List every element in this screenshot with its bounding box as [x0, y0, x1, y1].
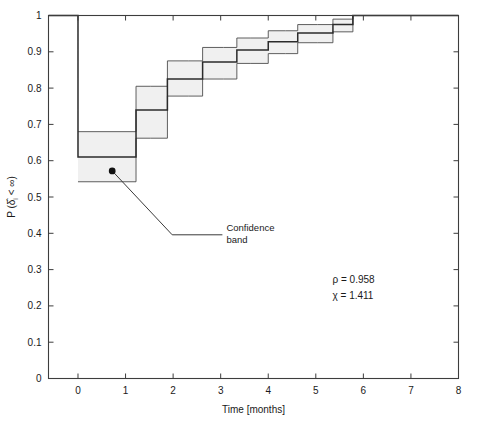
y-tick-label: 0.6 — [28, 155, 42, 166]
y-tick-label: 0.9 — [28, 46, 42, 57]
y-tick-label: 0.1 — [28, 337, 42, 348]
callout-point-marker — [109, 168, 116, 175]
callout-label-line1: Confidence — [226, 222, 274, 233]
x-tick-label: 3 — [218, 385, 224, 396]
y-axis-title-text: P (δ̂i < ∞) — [6, 176, 19, 218]
y-tick-label: 0.7 — [28, 119, 42, 130]
chi-statistic-label: χ = 1.411 — [333, 290, 374, 301]
x-tick-label: 2 — [170, 385, 176, 396]
y-tick-label: 0.2 — [28, 300, 42, 311]
callout-label-line2: band — [226, 234, 247, 245]
x-tick-label: 6 — [361, 385, 367, 396]
y-tick-label: 0.3 — [28, 264, 42, 275]
y-tick-label: 0.8 — [28, 83, 42, 94]
x-tick-label: 8 — [456, 385, 462, 396]
x-tick-label: 0 — [75, 385, 81, 396]
figure-root: 012345678 00.10.20.30.40.50.60.70.80.91 … — [0, 0, 478, 425]
x-axis-title: Time [months] — [222, 404, 285, 415]
rho-statistic-label: ρ = 0.958 — [333, 274, 376, 285]
y-tick-label: 0.4 — [28, 228, 42, 239]
y-tick-label: 0.5 — [28, 192, 42, 203]
x-tick-label: 5 — [313, 385, 319, 396]
y-tick-label: 1 — [36, 10, 42, 21]
x-tick-label: 4 — [265, 385, 271, 396]
y-tick-label: 0 — [36, 373, 42, 384]
chart-svg: 012345678 00.10.20.30.40.50.60.70.80.91 … — [0, 0, 478, 425]
x-tick-label: 7 — [408, 385, 414, 396]
x-tick-label: 1 — [123, 385, 129, 396]
y-axis-title: P (δ̂i < ∞) — [6, 176, 19, 218]
y-title-p: P ( — [6, 205, 17, 218]
y-title-rest: < ∞) — [6, 176, 17, 198]
